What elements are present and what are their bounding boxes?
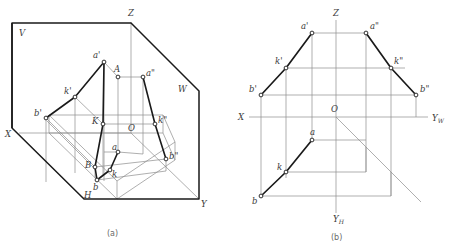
axis-Y-line bbox=[131, 133, 199, 199]
panel-a-origin-label-O: O bbox=[128, 123, 135, 133]
vertex-B bbox=[93, 165, 97, 169]
figure-captions: (a) (b) bbox=[107, 229, 342, 242]
panel-a-point-label-b-lower: b bbox=[93, 182, 98, 192]
panel-a-svg: V W H Z X Y O a' A a" k' b' K k" B a b" … bbox=[0, 0, 456, 249]
vertex-b-k-lower bbox=[284, 170, 288, 174]
vertex-A bbox=[116, 75, 120, 79]
vertex-b-prime bbox=[44, 116, 48, 120]
panel-a-point-label-K: K bbox=[91, 116, 99, 126]
plane-label-W: W bbox=[178, 84, 188, 94]
vertex-K bbox=[101, 122, 105, 126]
panel-a-point-label-a-lower: a bbox=[112, 142, 117, 152]
caption-b: (b) bbox=[331, 233, 342, 242]
vertex-b-k-prime bbox=[284, 66, 288, 70]
vertex-b-b-prime bbox=[259, 93, 263, 97]
vertex-b-double-prime bbox=[164, 157, 168, 161]
upper-box-left-edge bbox=[49, 115, 117, 181]
k-prime-to-K bbox=[75, 97, 103, 124]
panel-a-vertices bbox=[44, 60, 168, 182]
vertex-b-b-lower bbox=[259, 194, 263, 198]
panel-a-axis-label-X: X bbox=[4, 129, 12, 139]
vertex-b-a-prime bbox=[310, 31, 314, 35]
panel-b-point-label-a-lower: a bbox=[310, 127, 315, 137]
figure-page: V W H Z X Y O a' A a" k' b' K k" B a b" … bbox=[0, 0, 456, 249]
panel-b-axis-label-YW: YW bbox=[432, 113, 445, 124]
a-lower-to-a-dbl bbox=[118, 152, 143, 154]
panel-a-point-label-k-prime: k' bbox=[64, 86, 72, 96]
panel-a-point-label-b-prime: b' bbox=[34, 108, 42, 118]
B-to-b-dbl-prime bbox=[95, 159, 166, 167]
panel-b-point-label-b-double-prime: b" bbox=[420, 84, 429, 94]
panel-a-point-label-a-prime: a' bbox=[93, 50, 100, 60]
panel-b-point-label-a-prime: a' bbox=[301, 21, 308, 31]
vertex-b-a-lower bbox=[310, 138, 314, 142]
panel-b-point-label-k-double-prime: k" bbox=[394, 56, 403, 66]
plane-label-V: V bbox=[19, 28, 26, 38]
panel-b-point-label-b-lower: b bbox=[252, 196, 257, 206]
vertex-b-k-double-prime bbox=[389, 66, 393, 70]
panel-a-point-label-k-lower: k bbox=[112, 169, 117, 179]
panel-a-solid-edges bbox=[46, 62, 166, 180]
caption-a: (a) bbox=[107, 229, 118, 238]
top-view-line-akb bbox=[261, 140, 312, 196]
panel-a-point-label-k-double-prime: k" bbox=[158, 115, 167, 125]
panel-a-point-label-a-double-prime: a" bbox=[146, 68, 155, 78]
vertex-a-prime bbox=[102, 60, 106, 64]
panel-b-point-label-k-lower: k bbox=[277, 162, 282, 172]
panel-a-point-label-b-double-prime: b" bbox=[169, 151, 178, 161]
vertex-k-prime bbox=[73, 95, 77, 99]
plane-label-H: H bbox=[83, 190, 92, 200]
panel-a-point-label-B: B bbox=[84, 160, 91, 170]
panel-b-point-label-a-double-prime: a" bbox=[370, 21, 379, 31]
panel-a-construction-lines bbox=[19, 22, 199, 199]
panel-b-labels: Z X O YW YH a' a" k' k" b' b" a k b bbox=[237, 8, 445, 225]
panel-b-point-label-k-prime: k' bbox=[275, 56, 283, 66]
miter-45-line bbox=[336, 117, 421, 202]
front-view-line-akb bbox=[261, 33, 312, 95]
panel-b-point-label-b-prime: b' bbox=[249, 84, 257, 94]
vertex-b-a-double-prime bbox=[364, 31, 368, 35]
vertex-a-double-prime bbox=[141, 75, 145, 79]
vertex-b-b-double-prime bbox=[414, 93, 418, 97]
panel-b-axis-label-YH: YH bbox=[333, 214, 345, 225]
vertex-k-double-prime bbox=[153, 122, 157, 126]
panel-a-axis-label-Z: Z bbox=[127, 8, 135, 18]
panel-b-axis-label-X: X bbox=[237, 112, 245, 122]
panel-a-axis-label-Y: Y bbox=[201, 199, 208, 209]
panel-a-point-label-A: A bbox=[113, 64, 120, 74]
panel-b-construction-lines bbox=[249, 20, 428, 213]
panel-b-origin-label-O: O bbox=[331, 104, 338, 114]
panel-b-axis-label-Z: Z bbox=[332, 8, 340, 18]
